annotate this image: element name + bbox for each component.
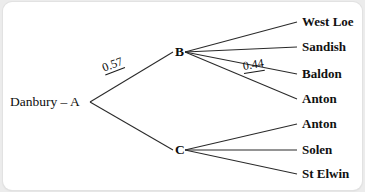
branch-c-to-leaf-6 <box>185 150 297 174</box>
diagram-stage: Danbury – A B C 0.57 0.44 West Loe Sandi… <box>0 0 365 192</box>
branch-root-to-c <box>90 102 173 150</box>
internal-node-c-label: C <box>175 143 185 157</box>
leaf-label-st-elwin: St Elwin <box>302 167 349 180</box>
root-node-label: Danbury – A <box>10 95 80 109</box>
leaf-label-baldon: Baldon <box>302 67 342 80</box>
leaf-label-anton-c: Anton <box>302 117 337 130</box>
internal-node-b-label: B <box>175 45 184 59</box>
leaf-label-anton-b: Anton <box>302 92 337 105</box>
branch-c-to-leaf-4 <box>185 124 297 150</box>
diagram-card: Danbury – A B C 0.57 0.44 West Loe Sandi… <box>3 2 362 190</box>
leaf-label-sandish: Sandish <box>302 40 346 53</box>
leaf-label-west-loe: West Loe <box>302 15 354 28</box>
leaf-label-solen: Solen <box>302 143 332 156</box>
branch-b-to-leaf-2 <box>185 52 297 74</box>
